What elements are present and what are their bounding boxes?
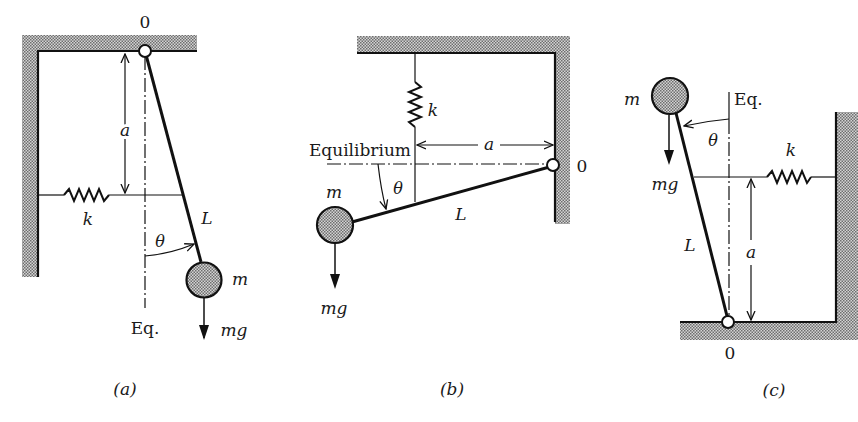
floor-hatch [680, 322, 858, 340]
length-label: L [683, 235, 695, 255]
pendulum-rod [145, 51, 201, 262]
mass-label: m [232, 269, 248, 289]
distance-label: a [746, 242, 756, 262]
weight-arrow-head [330, 274, 340, 289]
wall-hatch [836, 112, 858, 340]
figure-caption: (c) [763, 380, 786, 400]
pivot-label: 0 [577, 156, 588, 176]
figure-c: m Eq. θ k mg L a 0 (c) [624, 78, 858, 400]
wall-boundary [357, 53, 555, 222]
theta-arc [684, 119, 729, 126]
theta-arc [378, 164, 386, 209]
weight-label: mg [220, 320, 247, 340]
spring-label: k [428, 100, 438, 120]
equilibrium-label: Equilibrium [309, 140, 411, 160]
distance-label: a [484, 134, 494, 154]
pivot-label: 0 [725, 343, 736, 363]
mass-label: m [326, 182, 342, 202]
pivot-label: 0 [140, 12, 151, 32]
angle-label: θ [155, 232, 165, 251]
weight-arrow-head [199, 325, 209, 340]
figure-b: 0 k a Equilibrium m θ L mg (b) [309, 36, 587, 399]
pendulum-diagrams: 0 a k L θ m mg Eq. (a) 0 [0, 0, 858, 422]
spring-coil [767, 171, 811, 183]
ceiling-hatch [357, 36, 570, 52]
mass-bob [317, 207, 353, 243]
pivot [722, 316, 734, 328]
pivot [139, 45, 151, 57]
pivot [547, 159, 559, 171]
angle-label: θ [393, 179, 403, 198]
weight-arrow-head [664, 150, 674, 165]
wall-boundary [38, 51, 197, 277]
length-label: L [200, 208, 212, 228]
mass-label: m [624, 89, 640, 109]
length-label: L [454, 204, 466, 224]
equilibrium-label: Eq. [734, 89, 763, 109]
figure-caption: (b) [440, 379, 464, 399]
equilibrium-label: Eq. [131, 318, 160, 338]
mass-bob [652, 78, 688, 114]
spring-label: k [83, 209, 93, 229]
pendulum-rod [676, 113, 728, 320]
angle-label: θ [708, 131, 718, 150]
wall-hatch [555, 36, 570, 224]
weight-label: mg [651, 174, 678, 194]
figure-caption: (a) [113, 379, 136, 399]
figure-a: 0 a k L θ m mg Eq. (a) [22, 12, 248, 399]
wall-hatch [22, 35, 38, 277]
weight-label: mg [320, 298, 347, 318]
ceiling-hatch [22, 35, 197, 50]
spring-coil [64, 189, 109, 201]
spring-label: k [786, 140, 796, 160]
spring-coil [409, 82, 421, 127]
distance-label: a [120, 120, 130, 140]
mass-bob [187, 263, 222, 298]
theta-arc [145, 244, 194, 256]
